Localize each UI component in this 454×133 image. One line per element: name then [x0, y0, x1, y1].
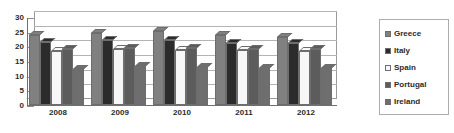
- bar-face: [186, 48, 197, 105]
- legend-label: Spain: [394, 63, 416, 72]
- bar-greece-2009: [91, 33, 102, 105]
- bar-ireland-2012: [321, 68, 332, 105]
- bar-top-face: [124, 44, 139, 48]
- y-axis-tick-label: 10: [0, 73, 24, 81]
- legend-swatch-icon: [385, 48, 391, 54]
- bar-italy-2008: [40, 42, 51, 105]
- bar-top-face: [40, 38, 55, 42]
- bar-face: [321, 68, 332, 105]
- bar-face: [226, 43, 237, 105]
- legend-item-italy: Italy: [385, 42, 448, 59]
- bar-group-2010: [151, 11, 213, 106]
- bar-italy-2010: [164, 40, 175, 105]
- bar-greece-2011: [215, 35, 226, 105]
- legend-label: Portugal: [394, 80, 426, 89]
- bar-face: [299, 51, 310, 105]
- x-axis: 20082009201020112012: [27, 108, 337, 122]
- bar-face: [113, 49, 124, 105]
- y-axis-tick-label: 15: [0, 58, 24, 66]
- bar-face: [51, 51, 62, 105]
- bar-ireland-2009: [135, 66, 146, 105]
- bar-top-face: [164, 36, 179, 40]
- legend-label: Ireland: [394, 97, 420, 106]
- bar-face: [40, 42, 51, 105]
- bar-portugal-2010: [186, 48, 197, 105]
- bar-face: [164, 40, 175, 105]
- bar-top-face: [62, 45, 77, 49]
- bar-portugal-2011: [248, 49, 259, 105]
- bar-face: [102, 40, 113, 105]
- bar-face: [73, 69, 84, 105]
- bar-chart: 051015202530 20082009201020112012 Greece…: [0, 0, 454, 133]
- y-axis-tick: [27, 106, 34, 107]
- y-axis: 051015202530: [0, 11, 24, 105]
- bar-face: [277, 37, 288, 105]
- bar-top-face: [215, 31, 230, 35]
- bar-portugal-2012: [310, 49, 321, 105]
- bar-group-2009: [89, 11, 151, 106]
- bar-portugal-2008: [62, 49, 73, 105]
- bar-spain-2009: [113, 49, 124, 105]
- legend-swatch-icon: [385, 82, 391, 88]
- bar-face: [237, 50, 248, 105]
- x-axis-tick-label: 2010: [151, 108, 213, 118]
- bar-face: [175, 50, 186, 105]
- y-axis-tick-label: 5: [0, 87, 24, 95]
- y-axis-tick-label: 0: [0, 102, 24, 110]
- bar-top-face: [226, 39, 241, 43]
- x-axis-tick-label: 2012: [275, 108, 337, 118]
- bar-portugal-2009: [124, 48, 135, 105]
- bar-top-face: [186, 44, 201, 48]
- y-axis-tick-label: 25: [0, 29, 24, 37]
- bar-spain-2011: [237, 50, 248, 105]
- bar-face: [153, 31, 164, 106]
- bar-italy-2011: [226, 43, 237, 105]
- bar-spain-2010: [175, 50, 186, 105]
- bar-face: [62, 49, 73, 105]
- bar-top-face: [73, 65, 88, 69]
- bar-top-face: [259, 64, 274, 68]
- bars-layer: [27, 11, 337, 106]
- bar-greece-2010: [153, 31, 164, 106]
- bar-italy-2009: [102, 40, 113, 105]
- bar-top-face: [197, 63, 212, 67]
- bar-top-face: [29, 31, 44, 35]
- bar-italy-2012: [288, 43, 299, 105]
- bar-face: [310, 49, 321, 105]
- bar-face: [215, 35, 226, 105]
- legend-swatch-icon: [385, 99, 391, 105]
- legend-label: Greece: [394, 29, 421, 38]
- bar-top-face: [248, 45, 263, 49]
- bar-face: [248, 49, 259, 105]
- bar-face: [29, 35, 40, 105]
- legend-item-greece: Greece: [385, 25, 448, 42]
- bar-face: [91, 33, 102, 105]
- bar-group-2012: [275, 11, 337, 106]
- legend-item-spain: Spain: [385, 59, 448, 76]
- y-axis-tick-label: 30: [0, 14, 24, 22]
- bar-ireland-2011: [259, 68, 270, 105]
- bar-top-face: [321, 64, 336, 68]
- legend: GreeceItalySpainPortugalIreland: [379, 19, 449, 115]
- bar-top-face: [277, 33, 292, 37]
- bar-spain-2008: [51, 51, 62, 105]
- legend-swatch-icon: [385, 65, 391, 71]
- x-axis-tick-label: 2009: [89, 108, 151, 118]
- bar-group-2008: [27, 11, 89, 106]
- bar-group-2011: [213, 11, 275, 106]
- bar-face: [259, 68, 270, 105]
- legend-swatch-icon: [385, 31, 391, 37]
- y-axis-tick-label: 20: [0, 43, 24, 51]
- bar-greece-2012: [277, 37, 288, 105]
- bar-ireland-2008: [73, 69, 84, 105]
- legend-item-ireland: Ireland: [385, 93, 448, 110]
- bar-top-face: [288, 39, 303, 43]
- bar-face: [135, 66, 146, 105]
- bar-top-face: [310, 45, 325, 49]
- bar-top-face: [153, 27, 168, 31]
- x-axis-tick-label: 2008: [27, 108, 89, 118]
- bar-ireland-2010: [197, 67, 208, 105]
- bar-spain-2012: [299, 51, 310, 105]
- x-axis-tick-label: 2011: [213, 108, 275, 118]
- legend-item-portugal: Portugal: [385, 76, 448, 93]
